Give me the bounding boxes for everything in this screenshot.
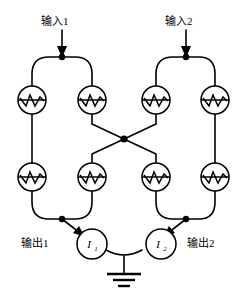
josephson-junction-3 <box>142 86 170 114</box>
circuit-schematic-svg: I 1 I 2 <box>0 0 246 297</box>
current-source-1: I 1 <box>77 229 107 259</box>
input-2-arrow <box>181 30 191 58</box>
josephson-junction-6 <box>78 163 106 191</box>
node-dot-output-2 <box>183 216 189 222</box>
output-2-label: 输出2 <box>187 238 215 249</box>
source-ground-rail <box>106 250 142 255</box>
right-loop-top-wire <box>156 57 215 86</box>
josephson-junction-7 <box>142 163 170 191</box>
node-dot-crossing <box>120 135 127 142</box>
current-source-2-subscript: 2 <box>163 245 167 253</box>
input-1-arrow <box>57 30 67 58</box>
node-dot-input-2 <box>183 54 189 60</box>
left-loop-top-wire <box>32 57 92 86</box>
input-2-label: 输入2 <box>165 16 193 27</box>
right-loop-bottom-wire <box>156 191 215 219</box>
josephson-junction-1 <box>18 86 46 114</box>
ground-icon <box>107 274 141 286</box>
circuit-diagram: I 1 I 2 输入1 输入2 输出1 输出2 <box>0 0 246 297</box>
output-1-label: 输出1 <box>21 238 49 249</box>
input-1-label: 输入1 <box>41 16 69 27</box>
josephson-junction-5 <box>18 163 46 191</box>
node-dot-input-1 <box>59 54 65 60</box>
node-dot-output-1 <box>59 216 65 222</box>
josephson-junction-4 <box>201 86 229 114</box>
current-source-1-subscript: 1 <box>94 245 98 253</box>
josephson-junction-2 <box>78 86 106 114</box>
left-loop-bottom-wire <box>32 191 92 219</box>
current-source-2: I 2 <box>146 229 176 259</box>
josephson-junction-8 <box>201 163 229 191</box>
